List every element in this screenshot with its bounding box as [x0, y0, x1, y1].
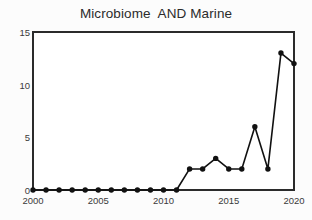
data-point-marker	[174, 187, 179, 192]
data-point-marker	[226, 166, 231, 171]
data-point-marker	[43, 187, 48, 192]
series-line	[33, 53, 294, 190]
chart-screenshot: Microbiome AND Marine 051015 20002005201…	[0, 0, 312, 220]
data-point-marker	[291, 61, 296, 66]
data-point-marker	[252, 124, 257, 129]
data-point-marker	[278, 50, 283, 55]
data-point-marker	[69, 187, 74, 192]
data-series-layer	[0, 0, 312, 220]
data-point-marker	[109, 187, 114, 192]
data-point-marker	[213, 156, 218, 161]
data-point-marker	[122, 187, 127, 192]
data-point-marker	[148, 187, 153, 192]
data-point-marker	[96, 187, 101, 192]
data-point-marker	[200, 166, 205, 171]
data-point-marker	[135, 187, 140, 192]
data-point-marker	[83, 187, 88, 192]
data-point-marker	[161, 187, 166, 192]
data-point-marker	[265, 166, 270, 171]
data-point-marker	[30, 187, 35, 192]
series-markers	[30, 50, 296, 192]
data-point-marker	[56, 187, 61, 192]
data-point-marker	[187, 166, 192, 171]
data-point-marker	[239, 166, 244, 171]
